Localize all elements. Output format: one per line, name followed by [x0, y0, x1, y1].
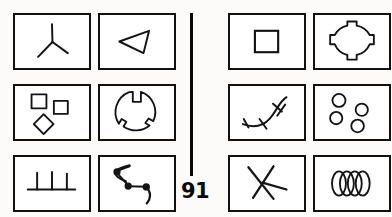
beaded-zigzag-path-icon: [100, 157, 174, 210]
figure-cell-tripod-y-shape: [13, 13, 91, 70]
notched-circle-icon: [100, 86, 174, 139]
tripod-y-shape-icon: [15, 15, 89, 68]
overlapping-ellipses-icon: [315, 157, 389, 210]
figure-cell-overlapping-ellipses: [313, 155, 391, 212]
figure-cell-crossed-strokes-x: [228, 155, 306, 212]
center-divider-rule: [190, 13, 193, 176]
crossed-strokes-x-icon: [230, 157, 304, 210]
figure-cell-hatched-curve: [228, 84, 306, 141]
figure-cell-comb-three-prongs: [13, 155, 91, 212]
hatched-curve-icon: [230, 86, 304, 139]
page-number: 91: [178, 181, 212, 202]
figure-cell-left-pointing-triangle: [98, 13, 176, 70]
tabbed-circle-icon: [315, 15, 389, 68]
left-pointing-triangle-icon: [100, 15, 174, 68]
figure-cell-square-in-square: [228, 13, 306, 70]
figure-cell-beaded-zigzag-path: [98, 155, 176, 212]
figure-cell-notched-circle: [98, 84, 176, 141]
figure-plate: 91: [0, 0, 392, 217]
four-circles-icon: [315, 86, 389, 139]
three-squares-icon: [15, 86, 89, 139]
square-in-square-icon: [230, 15, 304, 68]
figure-cell-tabbed-circle: [313, 13, 391, 70]
figure-cell-three-squares: [13, 84, 91, 141]
figure-cell-four-circles: [313, 84, 391, 141]
comb-three-prongs-icon: [15, 157, 89, 210]
